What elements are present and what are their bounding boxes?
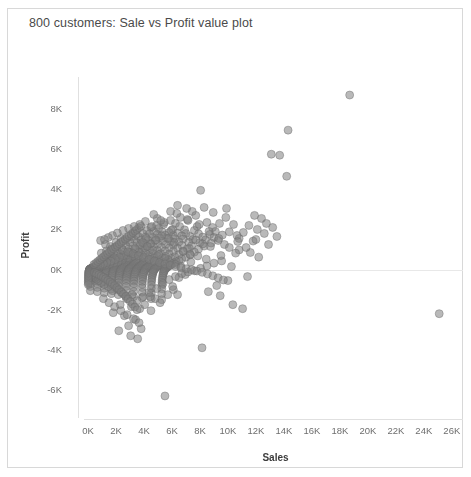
y-axis-tick-label: 2K <box>28 223 62 234</box>
visualization-frame: 800 customers: Sale vs Profit value plot… <box>7 8 463 468</box>
scatter-plot-region[interactable] <box>8 9 464 469</box>
y-axis-tick-label: -2K <box>28 304 62 315</box>
x-axis-title: Sales <box>88 452 463 463</box>
y-axis-tick-label: 8K <box>28 103 62 114</box>
x-axis-tick-label: 26K <box>436 425 468 436</box>
y-axis-tick-label: -6K <box>28 384 62 395</box>
y-axis-tick-label: 4K <box>28 183 62 194</box>
y-axis-tick-label: 0K <box>28 264 62 275</box>
y-axis-tick-label: -4K <box>28 344 62 355</box>
scatter-plot-canvas[interactable] <box>8 9 464 469</box>
y-axis-tick-label: 6K <box>28 143 62 154</box>
